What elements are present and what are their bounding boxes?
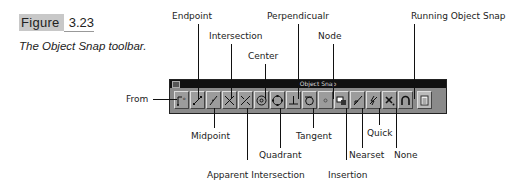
none-button[interactable] [382,91,397,109]
quadrant-button[interactable] [270,91,285,109]
midpoint-button[interactable] [206,91,221,109]
node-button[interactable] [318,91,333,109]
leader-tangent [313,108,314,128]
midpoint-icon [208,95,219,106]
object-snap-toolbar: Object Snap o [169,79,447,114]
running-object-snap-button[interactable] [398,91,413,109]
toolbar-title: Object Snap [170,79,446,88]
quick-icon [368,95,379,106]
quadrant-icon [272,95,283,106]
callout-endpoint: Endpoint [172,11,212,22]
callout-quadrant: Quadrant [259,150,301,161]
none-icon [384,95,395,106]
toolbar-titlebar[interactable]: Object Snap [170,80,446,88]
callout-perpendicular: Perpendicualr [267,11,329,22]
callout-none: None [394,150,417,161]
toolbar-button-row: o [174,91,432,111]
apparent-intersection-button[interactable] [238,91,253,109]
leader-apparent-intersection [247,108,248,160]
node-icon [320,95,331,106]
nearest-button[interactable] [350,91,365,109]
leader-running-object-snap [414,24,415,99]
callout-node: Node [318,31,342,42]
insertion-icon [336,95,347,106]
figure-caption: The Object Snap toolbar. [19,40,146,52]
figure-number: 3.23 [64,14,94,32]
leader-node [333,44,334,99]
callout-from: From [126,94,148,105]
callout-apparent-intersection: Apparent Intersection [207,170,305,181]
leader-quadrant [280,108,281,148]
callout-tangent: Tangent [296,131,332,142]
callout-center: Center [248,51,278,62]
quick-button[interactable] [366,91,381,109]
leader-endpoint [198,24,199,99]
leader-quick [379,108,380,125]
osnap-settings-button[interactable] [417,91,432,109]
figure-label: Figure 3.23 [19,14,94,31]
from-icon: o [176,95,187,106]
running-object-snap-icon [400,95,411,106]
leader-intersection [231,44,232,99]
osnap-settings-icon [419,95,430,106]
callout-running-object-snap: Running Object Snap [411,11,506,22]
leader-nearest [362,108,363,148]
tangent-icon [304,95,315,106]
apparent-intersection-icon [240,95,251,106]
from-button[interactable]: o [174,91,189,109]
callout-quick: Quick [367,128,392,139]
leader-from [153,99,177,100]
callout-nearest: Nearset [349,150,384,161]
leader-none [396,108,397,148]
svg-text:o: o [183,96,186,101]
insertion-button[interactable] [334,91,349,109]
intersection-button[interactable] [222,91,237,109]
tangent-button[interactable] [302,91,317,109]
leader-midpoint [214,108,215,128]
nearest-icon [352,95,363,106]
leader-perpendicular [298,24,299,99]
callout-midpoint: Midpoint [191,131,230,142]
leader-insertion [346,108,347,160]
leader-center [265,64,266,99]
intersection-icon [224,95,235,106]
callout-intersection: Intersection [209,31,263,42]
center-button[interactable] [254,91,269,109]
figure-word: Figure [19,14,64,31]
callout-insertion: Insertion [328,170,368,181]
